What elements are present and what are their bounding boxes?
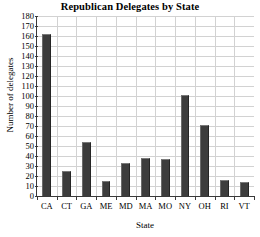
y-tick-label: 50: [26, 141, 35, 151]
y-tick-mark: [35, 26, 38, 27]
y-tick-label: 40: [26, 151, 35, 161]
x-tick-mark: [96, 196, 97, 200]
y-tick-label: 160: [21, 31, 34, 41]
y-tick-mark: [35, 146, 38, 147]
gridline-vertical: [215, 16, 216, 196]
x-tick-mark: [234, 196, 235, 200]
x-tick-mark: [37, 196, 38, 200]
y-tick-label: 110: [22, 81, 34, 91]
gridline-horizontal: [37, 106, 254, 107]
x-tick-label: MO: [158, 201, 172, 211]
y-tick-mark: [35, 36, 38, 37]
x-tick-label: VT: [238, 201, 249, 211]
x-tick-label: MD: [119, 201, 133, 211]
gridline-horizontal: [37, 66, 254, 67]
y-tick-mark: [35, 166, 38, 167]
bar: [220, 180, 229, 196]
y-tick-mark: [35, 106, 38, 107]
x-tick-mark: [215, 196, 216, 200]
x-tick-mark: [57, 196, 58, 200]
bar: [42, 34, 51, 196]
x-axis-label: State: [36, 220, 254, 230]
bar: [240, 182, 249, 196]
bar-chart: Republican Delegates by State Number of …: [0, 0, 260, 237]
gridline-vertical: [195, 16, 196, 196]
gridline-horizontal: [37, 26, 254, 27]
y-tick-label: 100: [21, 91, 34, 101]
x-tick-label: NY: [179, 201, 191, 211]
x-tick-mark: [116, 196, 117, 200]
chart-title: Republican Delegates by State: [0, 1, 260, 13]
x-tick-label: CA: [41, 201, 53, 211]
bar: [161, 159, 170, 196]
x-tick-mark: [136, 196, 137, 200]
y-tick-mark: [35, 186, 38, 187]
x-tick-mark: [155, 196, 156, 200]
plot-area: 0102030405060708090100110120130140150160…: [36, 16, 254, 197]
x-tick-label: RI: [220, 201, 229, 211]
y-tick-label: 170: [21, 21, 34, 31]
y-tick-label: 0: [30, 191, 34, 201]
bar: [181, 95, 190, 196]
gridline-vertical: [136, 16, 137, 196]
y-tick-mark: [35, 136, 38, 137]
gridline-vertical: [155, 16, 156, 196]
y-tick-mark: [35, 16, 38, 17]
bar: [102, 181, 111, 196]
x-tick-mark: [195, 196, 196, 200]
y-tick-mark: [35, 176, 38, 177]
gridline-horizontal: [37, 56, 254, 57]
gridline-vertical: [175, 16, 176, 196]
gridline-horizontal: [37, 76, 254, 77]
y-tick-mark: [35, 86, 38, 87]
y-tick-mark: [35, 96, 38, 97]
x-tick-mark: [254, 196, 255, 200]
y-tick-label: 140: [21, 51, 34, 61]
y-tick-label: 20: [26, 171, 35, 181]
y-tick-mark: [35, 46, 38, 47]
x-tick-label: GA: [80, 201, 92, 211]
gridline-horizontal: [37, 86, 254, 87]
x-tick-label: MA: [139, 201, 153, 211]
y-tick-label: 130: [21, 61, 34, 71]
y-tick-label: 80: [26, 111, 35, 121]
gridline-horizontal: [37, 36, 254, 37]
y-tick-label: 30: [26, 161, 35, 171]
y-tick-label: 60: [26, 131, 35, 141]
y-axis-label: Number of delegates: [5, 40, 15, 150]
y-tick-mark: [35, 126, 38, 127]
y-tick-label: 120: [21, 71, 34, 81]
gridline-horizontal: [37, 136, 254, 137]
gridline-horizontal: [37, 156, 254, 157]
gridline-horizontal: [37, 146, 254, 147]
y-tick-label: 90: [26, 101, 35, 111]
bar: [200, 125, 209, 196]
bar: [141, 158, 150, 196]
bar: [121, 163, 130, 196]
bar: [82, 142, 91, 196]
gridline-horizontal: [37, 126, 254, 127]
gridline-horizontal: [37, 46, 254, 47]
y-tick-label: 150: [21, 41, 34, 51]
gridline-vertical: [76, 16, 77, 196]
y-tick-mark: [35, 156, 38, 157]
y-tick-label: 70: [26, 121, 35, 131]
bar: [62, 171, 71, 196]
gridline-vertical: [96, 16, 97, 196]
x-tick-mark: [175, 196, 176, 200]
gridline-vertical: [116, 16, 117, 196]
gridline-vertical: [234, 16, 235, 196]
gridline-horizontal: [37, 16, 254, 17]
x-tick-label: OH: [199, 201, 211, 211]
gridline-horizontal: [37, 116, 254, 117]
x-tick-label: CT: [61, 201, 72, 211]
y-tick-mark: [35, 56, 38, 57]
x-tick-label: ME: [100, 201, 113, 211]
x-tick-mark: [76, 196, 77, 200]
y-tick-label: 10: [26, 181, 35, 191]
y-tick-mark: [35, 76, 38, 77]
y-tick-mark: [35, 66, 38, 67]
y-tick-mark: [35, 116, 38, 117]
gridline-horizontal: [37, 96, 254, 97]
gridline-vertical: [57, 16, 58, 196]
